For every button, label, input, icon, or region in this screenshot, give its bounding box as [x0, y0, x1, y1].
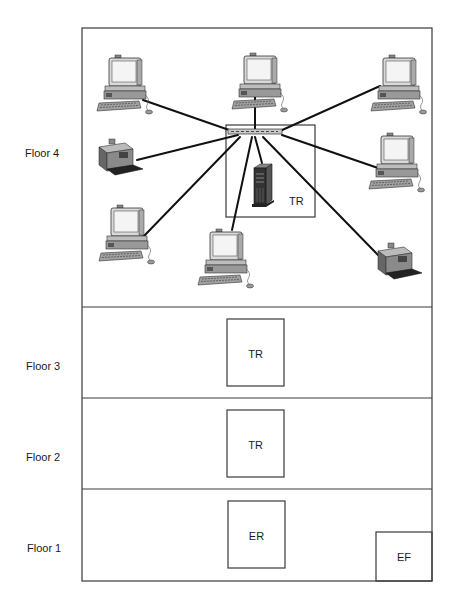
cable — [255, 137, 262, 163]
workstation-icon — [97, 55, 153, 114]
building-outline — [82, 28, 432, 581]
workstation-icon — [198, 229, 254, 288]
server-icon — [252, 164, 274, 207]
cable — [263, 137, 378, 255]
workstation-icon — [371, 55, 427, 114]
floor-label-3: Floor 3 — [26, 360, 60, 372]
network-switch — [228, 129, 282, 134]
cable — [280, 86, 380, 131]
printer-icon — [99, 139, 143, 175]
floor3-telecom-room: TR — [227, 319, 284, 386]
cable — [137, 135, 238, 160]
workstation-icon — [369, 133, 425, 192]
floor-label-2: Floor 2 — [26, 451, 60, 463]
room-label-er: ER — [249, 530, 264, 542]
floor-label-4: Floor 4 — [25, 147, 59, 159]
building-diagram: Floor 4 Floor 3 Floor 2 Floor 1 TR TR — [0, 0, 456, 608]
room-label-tr-2: TR — [248, 439, 263, 451]
floor1-equipment-room: ER — [228, 501, 285, 568]
workstation-icon — [232, 53, 288, 112]
cable — [232, 137, 252, 230]
floor1-entrance-facility: EF — [376, 532, 432, 581]
floor2-telecom-room: TR — [227, 410, 284, 477]
printer-icon — [378, 243, 422, 279]
room-label-ef: EF — [397, 551, 411, 563]
room-label-tr-3: TR — [248, 348, 263, 360]
cable — [143, 100, 232, 131]
floor-label-1: Floor 1 — [27, 542, 61, 554]
room-label-tr-4: TR — [289, 195, 304, 207]
cable — [282, 135, 378, 168]
